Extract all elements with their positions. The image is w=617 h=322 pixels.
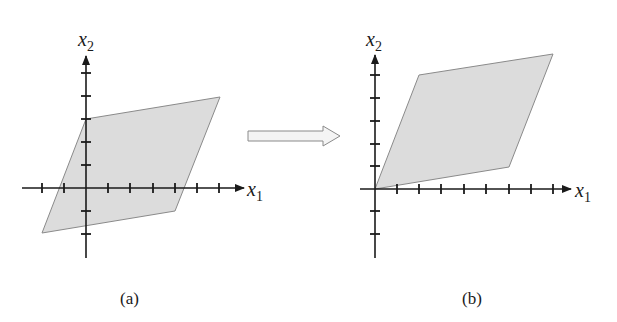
panel-a-caption: (a) (120, 289, 139, 308)
diagram-canvas: x2 x1 (a) x2 x1 (0, 0, 617, 322)
panel-b-caption: (b) (462, 289, 482, 308)
x2-axis-label: x2 (365, 28, 382, 54)
diagram-svg: x2 x1 (a) x2 x1 (0, 0, 617, 322)
panel-b: x2 x1 (b) (360, 28, 591, 308)
x2-axis-label: x2 (77, 28, 94, 54)
x1-axis-label: x1 (246, 178, 263, 204)
transform-arrow-icon (248, 126, 340, 146)
panel-a: x2 x1 (a) (22, 28, 263, 308)
parallelogram-transformed (375, 54, 553, 189)
parallelogram-original (42, 97, 220, 233)
x1-axis-label: x1 (574, 179, 591, 205)
